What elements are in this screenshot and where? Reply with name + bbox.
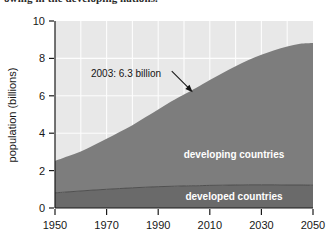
svg-text:0: 0 (39, 202, 45, 214)
annotation-2003-label: 2003: 6.3 billion (91, 68, 161, 79)
svg-text:2: 2 (39, 165, 45, 177)
svg-text:1970: 1970 (94, 219, 118, 231)
svg-text:10: 10 (33, 15, 45, 27)
svg-text:1950: 1950 (43, 219, 67, 231)
y-axis-title: population (billions) (6, 68, 18, 163)
svg-text:6: 6 (39, 90, 45, 102)
y-axis-ticks (49, 21, 54, 208)
y-axis-tick-labels: 0246810 (33, 15, 45, 214)
svg-text:4: 4 (39, 127, 45, 139)
series-label-developed-countries: developed countries (185, 191, 283, 202)
svg-text:2050: 2050 (301, 219, 325, 231)
svg-text:8: 8 (39, 52, 45, 64)
population-area-chart: 0246810 195019701990201020302050 populat… (0, 0, 329, 241)
x-axis-tick-labels: 195019701990201020302050 (43, 219, 325, 231)
series-label-developing-countries: developing countries (184, 149, 285, 160)
svg-text:2010: 2010 (198, 219, 222, 231)
svg-text:2030: 2030 (249, 219, 273, 231)
svg-text:1990: 1990 (146, 219, 170, 231)
figure-container: owing in the developing nations. 0246810… (0, 0, 329, 241)
x-axis-ticks (55, 209, 313, 215)
